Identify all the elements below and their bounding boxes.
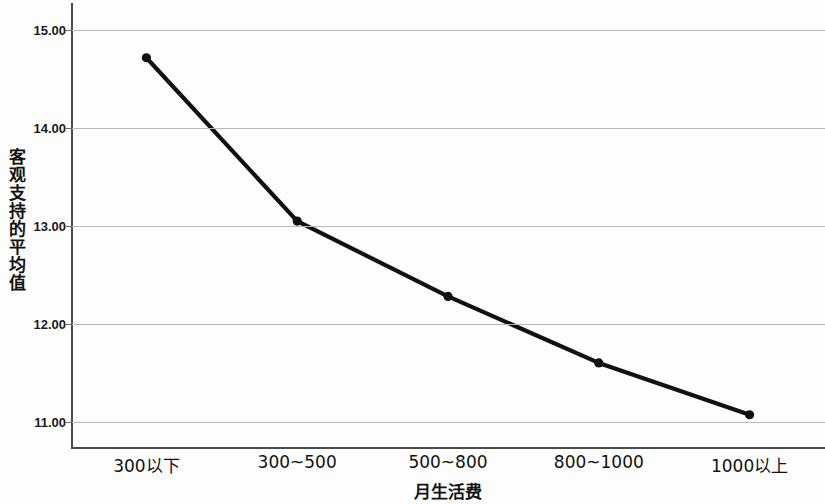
y-axis-tick-mark	[66, 128, 72, 129]
y-axis-tick-label: 12.00	[20, 316, 66, 331]
gridline	[71, 128, 825, 129]
x-axis-tick-label: 500~800	[373, 452, 523, 472]
plot-area: 300以下: 14.72300~500: 13.05500~800: 12.28…	[71, 3, 825, 449]
line-chart: 客 观 支 持 的 平 均 值 15.0014.0013.0012.0011.0…	[0, 0, 825, 504]
x-axis-tick-label: 300以下	[71, 452, 221, 477]
y-axis-tick-label: 14.00	[20, 121, 66, 136]
y-axis-tick-mark	[66, 226, 72, 227]
data-point-marker: 300~500: 13.05	[293, 217, 302, 226]
x-axis-tick-label: 800~1000	[524, 452, 674, 472]
data-point-marker: 300以下: 14.72	[142, 53, 151, 62]
gridline	[71, 422, 825, 423]
y-axis-tick-labels: 15.0014.0013.0012.0011.00	[14, 0, 66, 504]
x-axis-tick-label: 1000以上	[675, 452, 825, 477]
y-axis-tick-label: 15.00	[20, 23, 66, 38]
y-axis-tick-mark	[66, 422, 72, 423]
gridline	[71, 226, 825, 227]
series-line	[146, 58, 749, 415]
gridline	[71, 30, 825, 31]
y-axis-tick-label: 11.00	[20, 414, 66, 429]
x-axis-tick-labels: 300以下300~500500~800800~10001000以上	[71, 452, 825, 478]
data-point-marker: 1000以上: 11.07	[745, 410, 754, 419]
x-axis-tick-label: 300~500	[222, 452, 372, 472]
y-axis-tick-label: 13.00	[20, 219, 66, 234]
y-axis-tick-mark	[66, 30, 72, 31]
y-axis-tick-mark	[66, 324, 72, 325]
data-point-marker: 800~1000: 11.6	[594, 358, 603, 367]
data-point-marker: 500~800: 12.28	[443, 292, 452, 301]
gridline	[71, 324, 825, 325]
x-axis-title: 月生活费	[368, 478, 528, 503]
